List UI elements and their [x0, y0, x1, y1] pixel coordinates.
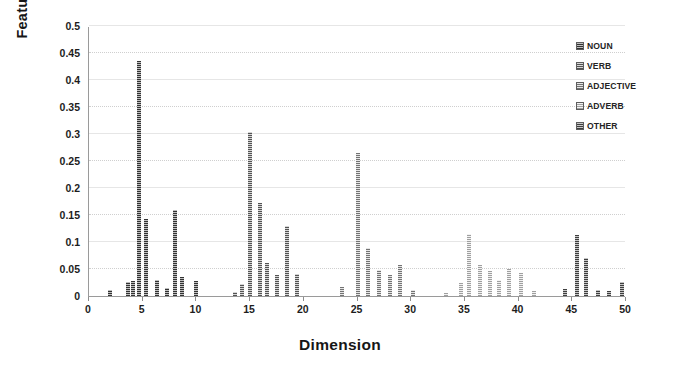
x-axis-tick-label: 5 [122, 303, 162, 315]
legend-swatch-icon [576, 122, 584, 130]
bar [126, 282, 130, 296]
x-axis-tick-label: 30 [390, 303, 430, 315]
legend-item-label: OTHER [587, 121, 618, 131]
y-axis-tick-label: 0.2 [34, 182, 80, 194]
legend-swatch-icon [576, 102, 584, 110]
bar [532, 291, 536, 296]
legend-item-label: ADVERB [587, 101, 624, 111]
bar [165, 288, 169, 296]
y-axis-tick-label: 0.5 [34, 20, 80, 32]
x-axis-tick-mark [410, 297, 411, 301]
gridline [89, 106, 625, 107]
legend-item-adjective[interactable]: ADJECTIVE [576, 76, 676, 95]
legend-swatch-icon [576, 62, 584, 70]
bar [137, 61, 141, 296]
legend-item-label: NOUN [587, 41, 613, 51]
bar [248, 132, 252, 296]
bar [131, 281, 135, 296]
legend-swatch-icon [576, 82, 584, 90]
bar [497, 280, 501, 296]
y-axis-tick-label: 0.15 [34, 209, 80, 221]
bar [194, 281, 198, 296]
x-axis-tick-label: 50 [605, 303, 645, 315]
bar [233, 292, 237, 296]
bar [285, 226, 289, 296]
bar [366, 248, 370, 296]
legend-item-verb[interactable]: VERB [576, 56, 676, 75]
x-axis-tick-mark [303, 297, 304, 301]
bar [155, 280, 159, 296]
gridline [89, 133, 625, 134]
bar [478, 265, 482, 296]
bar [275, 275, 279, 296]
bar [607, 291, 611, 296]
bar [584, 258, 588, 296]
x-axis-tick-label: 35 [444, 303, 484, 315]
bar [265, 263, 269, 296]
bar [563, 289, 567, 296]
bar [620, 282, 624, 296]
y-axis-tick-label: 0.05 [34, 263, 80, 275]
chart-figure: Feature Value 00.050.10.150.20.250.30.35… [0, 0, 680, 373]
x-axis-title: Dimension [0, 336, 680, 354]
x-axis-tick-label: 15 [229, 303, 269, 315]
legend-item-label: VERB [587, 61, 611, 71]
gridline [89, 79, 625, 80]
bar [411, 290, 415, 296]
y-axis-tick-label: 0.45 [34, 47, 80, 59]
bar [467, 234, 471, 296]
x-axis-tick-mark [464, 297, 465, 301]
bar [295, 274, 299, 296]
x-axis-tick-mark [249, 297, 250, 301]
y-axis-tick-label: 0.4 [34, 74, 80, 86]
x-axis-tick-mark [142, 297, 143, 301]
bar [444, 293, 448, 296]
bar [596, 290, 600, 296]
x-axis-tick-mark [571, 297, 572, 301]
gridline [89, 25, 625, 26]
x-axis-tick-mark [357, 297, 358, 301]
y-axis-tick-label: 0.3 [34, 128, 80, 140]
bar [575, 235, 579, 296]
plot-area [88, 27, 625, 297]
bar [180, 277, 184, 296]
x-axis-tick-mark [518, 297, 519, 301]
bar [459, 283, 463, 296]
bar [377, 270, 381, 296]
bar [108, 290, 112, 296]
gridline [89, 52, 625, 53]
bar [519, 273, 523, 296]
x-axis-tick-mark [88, 297, 89, 301]
legend: NOUNVERBADJECTIVEADVERBOTHER [576, 36, 676, 136]
legend-item-noun[interactable]: NOUN [576, 36, 676, 55]
legend-item-other[interactable]: OTHER [576, 116, 676, 135]
bar [144, 219, 148, 296]
bar [507, 269, 511, 296]
y-axis-tick-label: 0.1 [34, 236, 80, 248]
bar [173, 210, 177, 296]
x-axis-tick-mark [625, 297, 626, 301]
bar [240, 284, 244, 296]
bar [488, 271, 492, 296]
legend-item-adverb[interactable]: ADVERB [576, 96, 676, 115]
legend-item-label: ADJECTIVE [587, 81, 636, 91]
x-axis-tick-label: 20 [283, 303, 323, 315]
bar [398, 265, 402, 296]
bar [356, 153, 360, 296]
x-axis-tick-label: 10 [175, 303, 215, 315]
y-axis-tick-label: 0.25 [34, 155, 80, 167]
x-axis-tick-label: 0 [68, 303, 108, 315]
y-axis-tick-label: 0.35 [34, 101, 80, 113]
bar [388, 275, 392, 296]
bar [340, 287, 344, 296]
x-axis-tick-label: 25 [337, 303, 377, 315]
x-axis-tick-label: 45 [551, 303, 591, 315]
bar [258, 203, 262, 296]
y-axis-tick-label: 0 [34, 290, 80, 302]
x-axis-tick-mark [195, 297, 196, 301]
x-axis-tick-label: 40 [498, 303, 538, 315]
legend-swatch-icon [576, 42, 584, 50]
